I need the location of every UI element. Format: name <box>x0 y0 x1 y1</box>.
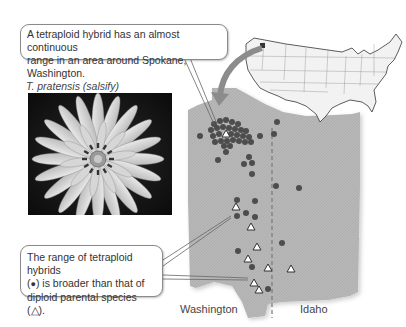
callout-top-line1: A tetraploid hybrid has an almost contin… <box>27 28 221 54</box>
paren-close: ). <box>39 304 45 316</box>
callout-range-comparison: The range of tetraploid hybrids (●) is b… <box>20 245 163 297</box>
callout-spokane-range: A tetraploid hybrid has an almost contin… <box>20 24 228 60</box>
callout-bottom-line3: diploid parental species (△). <box>27 291 156 317</box>
line2-text: ) is broader than that of <box>36 277 145 289</box>
diploid-triangle-icon: △ <box>31 304 39 316</box>
callout-bottom-line2: (●) is broader than that of <box>27 277 156 291</box>
callout-bottom-line1: The range of tetraploid hybrids <box>27 251 156 277</box>
callout-top-line2: range in an area around Spokane, Washing… <box>27 54 221 80</box>
